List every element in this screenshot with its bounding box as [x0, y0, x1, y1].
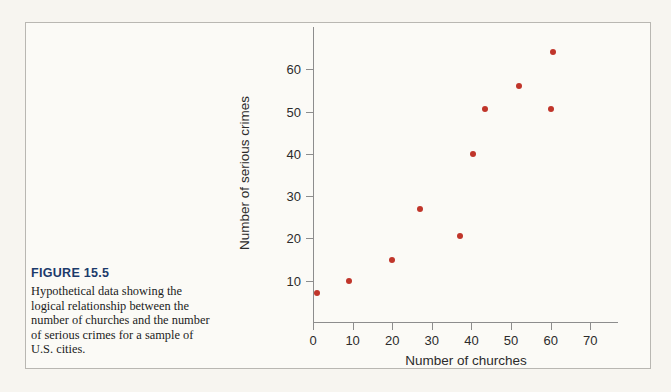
- y-tick-label: 60: [287, 62, 301, 77]
- data-point: [417, 206, 423, 212]
- figure-caption-text: Hypothetical data showing the logical re…: [31, 284, 216, 357]
- x-tick-label: 0: [309, 333, 316, 348]
- x-tick-label: 60: [543, 333, 557, 348]
- figure-number-label: FIGURE 15.5: [31, 266, 216, 280]
- figure-caption-block: FIGURE 15.5 Hypothetical data showing th…: [31, 266, 216, 357]
- y-tick-label: 10: [287, 273, 301, 288]
- data-point: [389, 257, 395, 263]
- y-tick-mark: [306, 281, 313, 282]
- x-tick-mark: [353, 323, 354, 330]
- y-axis-title: Number of serious crimes: [237, 96, 252, 250]
- data-point: [550, 49, 556, 55]
- data-point: [516, 83, 522, 89]
- x-tick-label: 30: [425, 333, 439, 348]
- x-tick-mark: [511, 323, 512, 330]
- x-axis-line: [313, 322, 618, 323]
- y-tick-label: 30: [287, 189, 301, 204]
- y-axis-line: [313, 27, 314, 323]
- x-tick-label: 70: [583, 333, 597, 348]
- figure-frame: FIGURE 15.5 Hypothetical data showing th…: [25, 22, 651, 369]
- plot-area: 102030405060 010203040506070: [313, 27, 618, 323]
- x-tick-label: 20: [385, 333, 399, 348]
- scatter-chart: Number of serious crimes Number of churc…: [226, 23, 652, 370]
- y-tick-mark: [306, 154, 313, 155]
- x-tick-mark: [471, 323, 472, 330]
- y-tick-label: 20: [287, 231, 301, 246]
- data-point: [346, 278, 352, 284]
- x-tick-label: 50: [504, 333, 518, 348]
- x-axis-title: Number of churches: [405, 353, 527, 368]
- x-tick-mark: [313, 323, 314, 330]
- y-tick-label: 40: [287, 146, 301, 161]
- data-point: [548, 106, 554, 112]
- x-tick-mark: [551, 323, 552, 330]
- y-tick-mark: [306, 196, 313, 197]
- data-point: [470, 151, 476, 157]
- data-point: [314, 290, 320, 296]
- data-point: [457, 233, 463, 239]
- x-tick-label: 10: [345, 333, 359, 348]
- x-tick-mark: [392, 323, 393, 330]
- y-tick-mark: [306, 112, 313, 113]
- x-tick-label: 40: [464, 333, 478, 348]
- y-tick-mark: [306, 69, 313, 70]
- x-tick-mark: [590, 323, 591, 330]
- data-point: [482, 106, 488, 112]
- y-tick-mark: [306, 238, 313, 239]
- y-tick-label: 50: [287, 104, 301, 119]
- x-tick-mark: [432, 323, 433, 330]
